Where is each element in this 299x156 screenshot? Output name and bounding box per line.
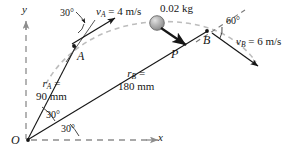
- radius-b-label: rB = 180 mm: [118, 68, 154, 92]
- y-axis-label: y: [22, 4, 27, 16]
- angle-label-ra-origin: 30°: [46, 110, 60, 121]
- radius-b-symbol-line: rB =: [118, 68, 154, 81]
- velocity-b-label: vB = 6 m/s: [236, 36, 281, 49]
- radius-a-label: rA = 90 mm: [36, 78, 67, 102]
- point-dot-a: [72, 44, 76, 48]
- x-axis-label: x: [158, 132, 163, 144]
- angle-label-velocity-b: 60°: [226, 16, 240, 27]
- force-p-arrow: [161, 28, 186, 45]
- velocity-a-label: vA = 4 m/s: [96, 6, 141, 19]
- angle-label-velocity-a: 30°: [60, 8, 74, 19]
- physics-diagram: y x O A B 30° 60° 30° 30° vA = 4 m/s 0.0…: [0, 0, 299, 156]
- mass-label: 0.02 kg: [160, 3, 193, 15]
- angle-label-rb-origin: 30°: [61, 124, 75, 135]
- radius-a-equals: =: [51, 77, 60, 89]
- force-p-label: P: [171, 48, 178, 61]
- angle-arc-a: [76, 12, 85, 33]
- origin-label: O: [11, 134, 20, 147]
- point-b-label: B: [203, 34, 210, 47]
- radius-a-symbol-line: rA =: [36, 78, 67, 91]
- radius-a-value: 90 mm: [36, 91, 67, 103]
- point-dot-origin: [26, 138, 30, 142]
- velocity-a-value: = 4 m/s: [105, 5, 141, 17]
- velocity-b-value: = 6 m/s: [245, 35, 281, 47]
- point-a-label: A: [77, 50, 84, 63]
- radius-b-equals: =: [136, 67, 145, 79]
- radius-b-value: 180 mm: [118, 81, 154, 93]
